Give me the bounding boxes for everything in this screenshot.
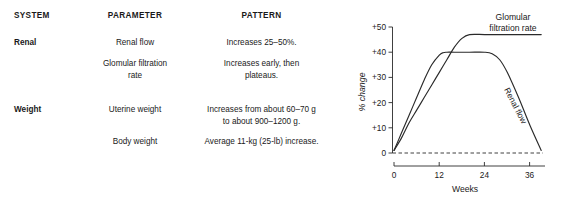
table-row: Renal Renal flow Increases 25–50%.	[14, 29, 339, 49]
y-tick-label: +40	[372, 47, 386, 57]
cell-line: Renal flow	[86, 37, 184, 49]
table-header: SYSTEM PARAMETER PATTERN	[14, 11, 339, 29]
y-tick-label: +20	[372, 98, 386, 108]
renal-changes-chart-panel: 0 +10 +20 +30 +40 +50 % change	[345, 0, 570, 204]
cell-line: Increases 25–50%.	[184, 37, 339, 49]
figure-root: SYSTEM PARAMETER PATTERN Renal Renal flo…	[0, 0, 570, 204]
cell-system: Renal	[14, 29, 86, 49]
cell-system	[14, 49, 86, 82]
series-label-line: Glomular	[496, 12, 531, 22]
x-axis-tick-labels: 0 12 24 36	[392, 170, 535, 180]
cell-parameter: Renal flow	[86, 29, 184, 49]
x-axis-ticks	[394, 162, 530, 166]
cell-system	[14, 127, 86, 148]
physiologic-changes-table: SYSTEM PARAMETER PATTERN Renal Renal flo…	[14, 11, 339, 148]
y-tick-label: 0	[381, 148, 386, 158]
y-tick-label: +50	[372, 22, 386, 32]
cell-line: to about 900–1200 g.	[184, 116, 339, 128]
cell-line: Uterine weight	[86, 104, 184, 116]
series-label-glomular-filtration-rate: Glomular filtration rate	[489, 12, 537, 33]
column-header-parameter: PARAMETER	[86, 11, 184, 29]
table-row: Weight Uterine weight Increases from abo…	[14, 82, 339, 128]
cell-parameter: Body weight	[86, 127, 184, 148]
cell-line: Body weight	[86, 136, 184, 148]
y-tick-label: +10	[372, 123, 386, 133]
cell-line: Increases from about 60–70 g	[184, 104, 339, 116]
cell-parameter: Uterine weight	[86, 82, 184, 128]
cell-line: rate	[86, 70, 184, 82]
cell-line: Glomular filtration	[86, 58, 184, 70]
x-tick-label: 0	[392, 170, 397, 180]
x-tick-label: 36	[525, 170, 535, 180]
table-header-row: SYSTEM PARAMETER PATTERN	[14, 11, 339, 29]
cell-pattern: Average 11-kg (25-lb) increase.	[184, 127, 339, 148]
x-tick-label: 12	[435, 170, 445, 180]
parameters-table-panel: SYSTEM PARAMETER PATTERN Renal Renal flo…	[0, 0, 345, 204]
x-tick-label: 24	[480, 170, 490, 180]
table-row: Glomular filtration rate Increases early…	[14, 49, 339, 82]
cell-pattern: Increases 25–50%.	[184, 29, 339, 49]
series-label-line: filtration rate	[489, 23, 537, 33]
cell-pattern: Increases early, then plateaus.	[184, 49, 339, 82]
y-axis-ticks	[389, 27, 393, 153]
column-header-system: SYSTEM	[14, 11, 86, 29]
cell-line: Average 11-kg (25-lb) increase.	[184, 136, 339, 148]
y-axis-title: % change	[357, 72, 367, 111]
column-header-pattern: PATTERN	[184, 11, 339, 29]
renal-changes-chart: 0 +10 +20 +30 +40 +50 % change	[345, 0, 570, 204]
cell-system: Weight	[14, 82, 86, 128]
cell-pattern: Increases from about 60–70 g to about 90…	[184, 82, 339, 128]
cell-parameter: Glomular filtration rate	[86, 49, 184, 82]
x-axis-title: Weeks	[452, 184, 478, 194]
y-tick-label: +30	[372, 72, 386, 82]
cell-line: plateaus.	[184, 70, 339, 82]
table-row: Body weight Average 11-kg (25-lb) increa…	[14, 127, 339, 148]
cell-line: Increases early, then	[184, 58, 339, 70]
table-body: Renal Renal flow Increases 25–50%. Glomu…	[14, 29, 339, 148]
y-axis-tick-labels: 0 +10 +20 +30 +40 +50	[372, 22, 386, 158]
